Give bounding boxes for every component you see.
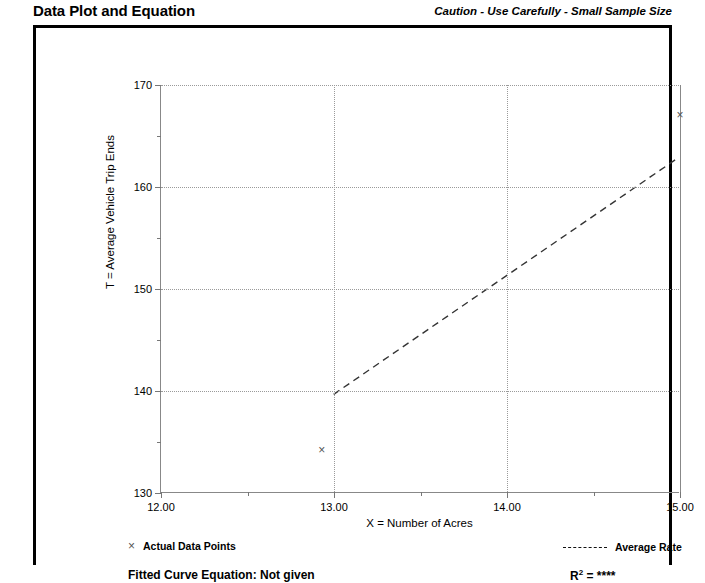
legend-average-rate: Average Rate: [563, 541, 682, 553]
y-tick-label: 170: [134, 79, 152, 91]
r-squared-number: = ****: [586, 569, 615, 583]
gridline-horizontal: [161, 187, 679, 188]
y-tick-label: 140: [134, 385, 152, 397]
gridline-horizontal: [161, 85, 679, 86]
x-axis-title: X = Number of Acres: [160, 517, 679, 529]
y-tick-minor: [157, 238, 161, 239]
x-tick-label: 15.00: [666, 501, 694, 513]
y-tick: [155, 187, 161, 188]
x-tick: [680, 492, 681, 498]
figure-frame: T = Average Vehicle Trip Ends X = Number…: [33, 25, 672, 565]
caution-note: Caution - Use Carefully - Small Sample S…: [434, 5, 672, 17]
gridline-horizontal: [161, 391, 679, 392]
legend-average-label: Average Rate: [615, 541, 682, 553]
x-tick-label: 14.00: [493, 501, 521, 513]
y-tick: [155, 391, 161, 392]
y-tick-label: 130: [134, 487, 152, 499]
y-tick: [155, 289, 161, 290]
gridline-vertical: [507, 85, 508, 492]
x-tick-label: 12.00: [147, 501, 175, 513]
x-tick-label: 13.00: [320, 501, 348, 513]
legend-actual-label: Actual Data Points: [143, 540, 236, 552]
plot-right-edge: [680, 85, 681, 492]
y-tick-label: 150: [134, 283, 152, 295]
y-tick-minor: [157, 136, 161, 137]
x-tick: [161, 492, 162, 498]
x-tick: [334, 492, 335, 498]
y-tick-minor: [157, 340, 161, 341]
x-tick: [507, 492, 508, 498]
x-tick-minor: [421, 492, 422, 496]
fitted-curve-equation: Fitted Curve Equation: Not given: [128, 568, 315, 582]
plot-area: 13014015016017012.0013.0014.0015.00××: [160, 85, 679, 493]
x-tick-minor: [594, 492, 595, 496]
y-tick: [155, 85, 161, 86]
x-marker-icon: ×: [128, 540, 135, 552]
r-squared-value: R2 = ****: [570, 568, 616, 583]
dashed-line-icon: [563, 547, 607, 548]
y-axis-title: T = Average Vehicle Trip Ends: [104, 135, 116, 289]
legend-actual-data-points: × Actual Data Points: [128, 540, 236, 552]
gridline-horizontal: [161, 289, 679, 290]
x-tick-minor: [248, 492, 249, 496]
data-point: ×: [316, 445, 327, 456]
y-tick-minor: [157, 442, 161, 443]
gridline-vertical: [334, 85, 335, 492]
data-point: ×: [675, 110, 686, 121]
y-tick-label: 160: [134, 181, 152, 193]
r-squared-exponent: 2: [579, 568, 583, 577]
r-squared-prefix: R: [570, 569, 579, 583]
page-title: Data Plot and Equation: [33, 2, 195, 19]
